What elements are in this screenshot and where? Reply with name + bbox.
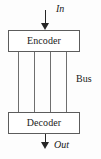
bus-line-3 <box>50 52 51 112</box>
arrow-head-icon <box>41 142 49 149</box>
input-label: In <box>56 4 64 14</box>
encoder-block-label: Encoder <box>27 36 61 46</box>
block-diagram: In Encoder Bus Decoder Out <box>0 0 101 159</box>
decoder-block-label: Decoder <box>27 118 62 128</box>
arrow-shaft <box>45 10 46 24</box>
output-label: Out <box>54 140 69 150</box>
output-arrow-icon <box>40 134 51 149</box>
bus-line-2 <box>34 52 35 112</box>
bus-line-1 <box>18 52 19 112</box>
encoder-block: Encoder <box>8 30 80 52</box>
bus-label: Bus <box>76 74 92 84</box>
input-arrow-icon <box>40 10 51 30</box>
arrow-head-icon <box>41 23 49 30</box>
decoder-block: Decoder <box>8 112 80 134</box>
bus-line-4 <box>66 52 67 112</box>
